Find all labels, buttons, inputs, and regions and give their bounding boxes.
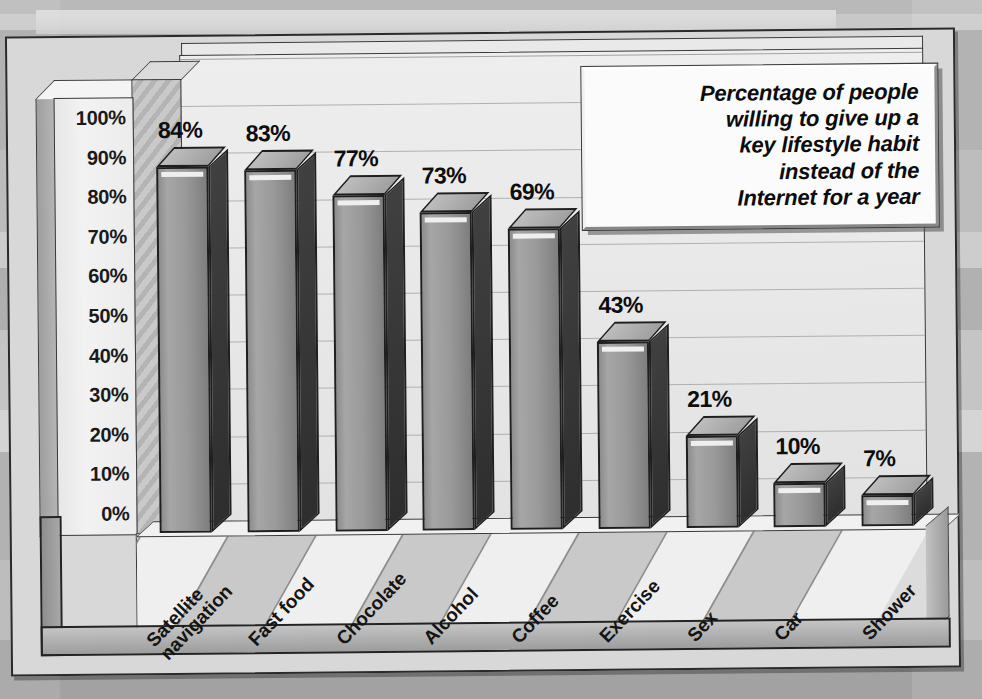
bar-value-label-6: 21%: [687, 386, 732, 413]
bar-8[interactable]: [862, 495, 914, 526]
bar-value-label-1: 83%: [246, 120, 291, 147]
bar-side-face: [472, 194, 495, 530]
bar-side-face: [560, 210, 583, 529]
bar-value-label-4: 69%: [509, 178, 554, 205]
y-axis-tick-60: 60%: [55, 266, 127, 287]
bar-front-face: [332, 195, 387, 531]
y-axis-tick-20: 20%: [57, 424, 129, 445]
chart-title-box: Percentage of people willing to give up …: [581, 64, 939, 230]
bar-side-face: [208, 148, 231, 532]
bar-7[interactable]: [774, 483, 826, 527]
bar-highlight: [691, 441, 733, 446]
bar-highlight: [602, 346, 644, 351]
bar-1[interactable]: [244, 170, 299, 532]
bar-value-label-5: 43%: [598, 291, 643, 318]
y-axis-tick-30: 30%: [56, 385, 128, 406]
bar-front-face: [508, 228, 563, 529]
gridline-100: [180, 52, 922, 60]
y-axis-tick-90: 90%: [54, 147, 126, 168]
chart-title-line-0: Percentage of people: [598, 79, 918, 108]
y-axis-tick-40: 40%: [56, 345, 128, 366]
bar-front-face: [420, 212, 475, 531]
y-axis-tick-100: 100%: [54, 107, 126, 128]
bar-value-label-2: 77%: [334, 145, 379, 172]
y-axis-tick-80: 80%: [54, 187, 126, 208]
bar-value-label-7: 10%: [775, 433, 820, 460]
bar-front-face: [597, 341, 651, 529]
bar-front-face: [774, 483, 826, 527]
bar-0[interactable]: [156, 166, 212, 533]
chart-title-line-3: instead of the: [599, 157, 919, 186]
y-axis-tick-10: 10%: [57, 464, 129, 485]
bar-front-face: [156, 166, 212, 533]
bar-side-face: [296, 152, 319, 532]
bar-value-label-0: 84%: [158, 116, 203, 143]
bar-2[interactable]: [332, 195, 387, 531]
category-floor-right-edge: [926, 506, 950, 636]
bar-front-face: [862, 495, 914, 526]
bar-highlight: [513, 233, 555, 238]
y-axis-tick-70: 70%: [55, 226, 127, 247]
bar-value-label-8: 7%: [863, 446, 896, 473]
bar-highlight: [161, 171, 203, 176]
bar-highlight: [425, 217, 467, 222]
bar-6[interactable]: [685, 436, 738, 528]
bar-highlight: [779, 488, 821, 493]
bar-value-label-3: 73%: [422, 162, 467, 189]
chart-title-line-4: Internet for a year: [599, 183, 919, 212]
chart-card: Percentage of people willing to give up …: [5, 27, 961, 676]
bar-3[interactable]: [420, 212, 475, 531]
chart-title-line-2: key lifestyle habit: [599, 131, 919, 160]
bar-highlight: [249, 175, 291, 180]
bar-front-face: [244, 170, 299, 532]
bar-highlight: [867, 500, 909, 505]
y-axis-tick-50: 50%: [56, 305, 128, 326]
bar-5[interactable]: [597, 341, 651, 529]
chart-title-line-1: willing to give up a: [599, 105, 919, 134]
bar-side-face: [384, 177, 407, 531]
bar-side-face: [649, 323, 671, 529]
bar-front-face: [685, 436, 738, 528]
y-axis-tick-0: 0%: [57, 503, 129, 524]
bar-4[interactable]: [508, 228, 563, 529]
bar-highlight: [337, 200, 379, 205]
bar-side-face: [737, 418, 758, 528]
